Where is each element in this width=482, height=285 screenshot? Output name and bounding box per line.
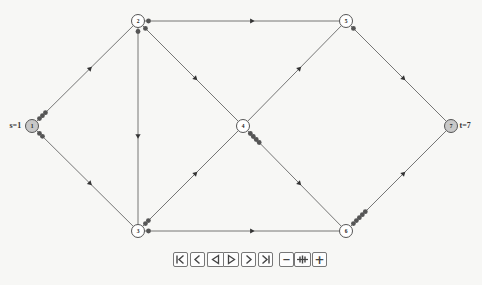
play-backward-button[interactable] [207, 252, 223, 267]
svg-text:6: 6 [345, 228, 348, 234]
play-forward-button[interactable] [223, 252, 239, 267]
prev-button[interactable] [190, 252, 205, 267]
flow-unit-dot [43, 110, 48, 115]
edge-3-6 [145, 228, 340, 233]
flow-unit-dot [146, 218, 151, 223]
node-6[interactable]: 6 [340, 225, 353, 238]
slower-button[interactable]: − [279, 252, 294, 267]
flow-unit-dot [136, 29, 141, 34]
svg-text:5: 5 [345, 18, 348, 24]
units-layer [37, 19, 368, 234]
minus-icon: − [282, 255, 290, 265]
node-4[interactable]: 4 [237, 120, 250, 133]
node-3[interactable]: 3 [132, 225, 145, 238]
svg-text:2: 2 [137, 18, 140, 24]
flow-unit-dot [146, 19, 151, 24]
flow-network-diagram: 1234567 [0, 0, 482, 285]
arrowhead-icon [135, 134, 140, 139]
last-button[interactable] [258, 252, 273, 267]
reset-speed-button[interactable] [294, 252, 311, 267]
play-forward-icon [226, 254, 237, 265]
edge-4-6 [248, 131, 342, 227]
animation-controls: − + [0, 252, 482, 272]
skip-to-start-icon [175, 254, 186, 265]
play-backward-icon [210, 254, 221, 265]
edge-1-3 [37, 131, 134, 227]
edge-2-3 [135, 28, 140, 225]
faster-button[interactable]: + [312, 252, 327, 267]
flow-unit-dot [146, 229, 151, 234]
svg-text:7: 7 [450, 123, 453, 129]
arrowhead-icon [250, 18, 255, 23]
edge-4-5 [248, 26, 342, 122]
edge-5-7 [351, 26, 447, 122]
edge-2-5 [145, 18, 340, 23]
skip-to-end-icon [260, 254, 271, 265]
sink-label: t=7 [460, 121, 471, 131]
flow-unit-dot [143, 26, 148, 31]
step-forward-icon [243, 254, 254, 265]
plus-icon: + [314, 255, 324, 265]
svg-text:3: 3 [137, 228, 140, 234]
svg-text:4: 4 [242, 123, 245, 129]
node-5[interactable]: 5 [340, 15, 353, 28]
next-button[interactable] [241, 252, 256, 267]
speed-reset-icon [296, 254, 309, 265]
node-7[interactable]: 7 [445, 120, 458, 133]
flow-unit-dot [257, 140, 262, 145]
flow-unit-dot [40, 134, 45, 139]
node-2[interactable]: 2 [132, 15, 145, 28]
flow-unit-dot [351, 26, 356, 31]
edge-1-2 [37, 26, 134, 122]
node-1[interactable]: 1 [26, 120, 39, 133]
step-back-icon [192, 254, 203, 265]
edge-3-4 [143, 131, 239, 227]
first-button[interactable] [173, 252, 188, 267]
nodes-layer: 1234567 [26, 15, 458, 238]
arrowhead-icon [250, 228, 255, 233]
edge-2-4 [143, 26, 239, 122]
svg-text:1: 1 [31, 123, 34, 129]
source-label: s=1 [10, 121, 22, 131]
flow-unit-dot [363, 209, 368, 214]
